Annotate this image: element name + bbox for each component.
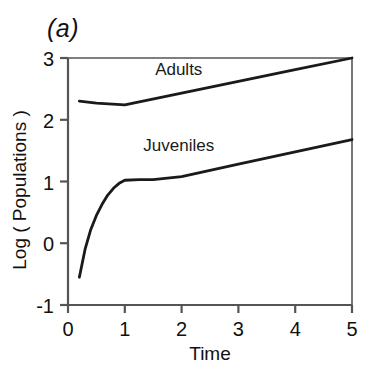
x-tick-label-1: 1 [119,318,130,340]
series-line-juveniles [79,140,352,278]
x-axis-title: Time [189,343,231,364]
series-label-adults: Adults [155,60,202,79]
y-tick-label-2: 2 [43,110,54,132]
y-axis-tick-labels: 3 2 1 0 -1 [36,48,54,317]
series-line-adults [79,58,352,105]
y-tick-label-neg1: -1 [36,295,54,317]
x-axis-ticks [68,305,352,313]
x-tick-label-2: 2 [176,318,187,340]
x-tick-label-5: 5 [346,318,357,340]
series-label-juveniles: Juveniles [143,136,214,155]
y-axis-title: Log ( Populations ) [9,110,30,270]
y-axis-ticks [60,58,68,305]
axes-frame [68,58,352,305]
figure-panel-a: (a) 3 2 1 [0,0,377,375]
series-annotations: Adults Juveniles [143,60,214,154]
x-axis-tick-labels: 0 1 2 3 4 5 [62,318,357,340]
x-tick-label-3: 3 [233,318,244,340]
y-tick-label-0: 0 [43,233,54,255]
x-tick-label-0: 0 [62,318,73,340]
y-tick-label-1: 1 [43,172,54,194]
x-tick-label-4: 4 [290,318,301,340]
y-tick-label-3: 3 [43,48,54,70]
population-log-line-chart: 3 2 1 0 -1 0 1 2 3 4 5 Adults Juveniles … [0,0,377,375]
data-series-group [79,58,352,277]
